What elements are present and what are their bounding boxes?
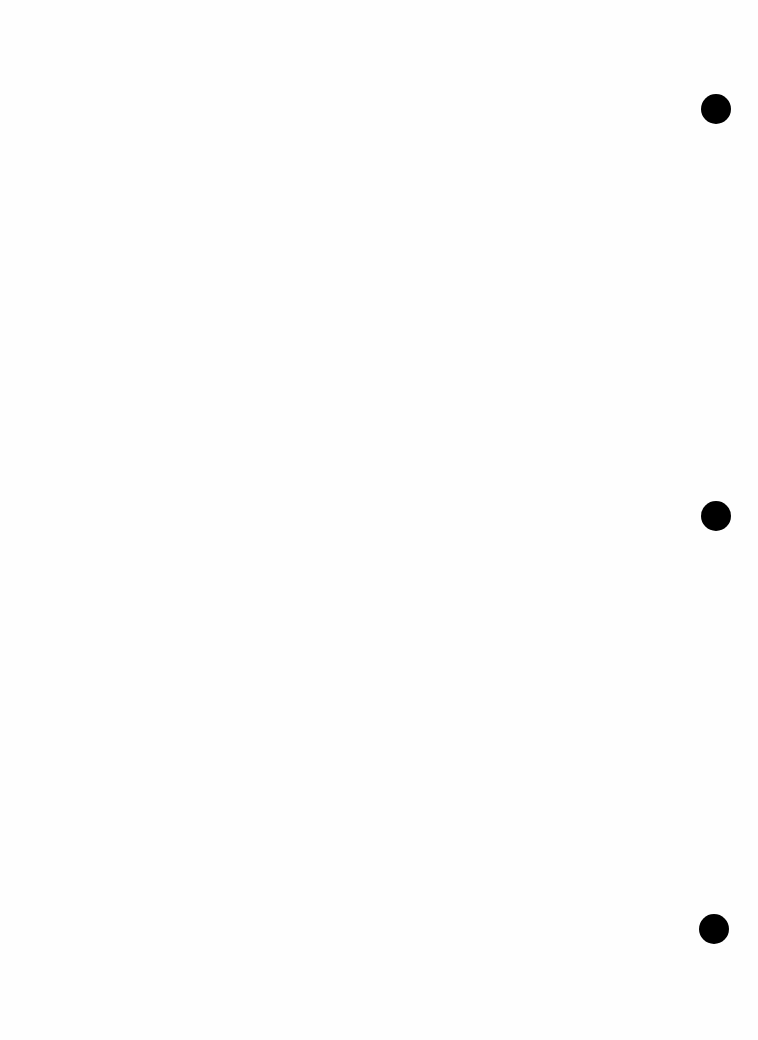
punch-hole-bottom (699, 914, 729, 944)
blank-scanned-page (0, 0, 758, 1040)
punch-hole-top (701, 94, 731, 124)
punch-hole-middle (701, 501, 731, 531)
